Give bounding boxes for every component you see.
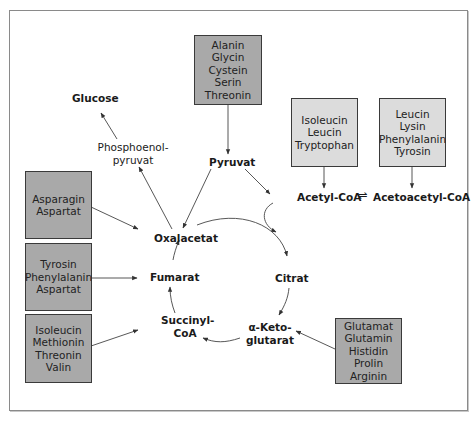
amino-acid: Glycin — [212, 51, 245, 64]
amino-acid: Aspartat — [36, 205, 81, 218]
metabolite-glucose: Glucose — [72, 92, 119, 105]
pep-line1: Phosphoenol- — [97, 141, 169, 154]
amino-acid: Leucin — [307, 126, 341, 139]
source-box-isoleucin-methionin-group: Isoleucin Methionin Threonin Valin — [25, 314, 92, 383]
amino-acid: Threonin — [205, 89, 251, 102]
amino-acid: Methionin — [33, 336, 85, 349]
metabolite-pyruvat: Pyruvat — [209, 156, 255, 169]
amino-acid: Prolin — [354, 357, 383, 370]
metabolite-oxalacetat: Oxalacetat — [154, 232, 218, 245]
amino-acid: Lysin — [399, 120, 425, 133]
metabolite-acetyl-coa: Acetyl-CoA — [297, 191, 361, 204]
equilibrium-arrow-icon: ⇌ — [358, 190, 367, 203]
amino-acid: Tyrosin — [394, 145, 431, 158]
amino-acid: Valin — [46, 361, 71, 374]
source-box-alanin-group: Alanin Glycin Cystein Serin Threonin — [194, 35, 262, 105]
source-box-tyrosin-group: Tyrosin Phenylalanin Aspartat — [25, 243, 92, 311]
source-box-asparagin-group: Asparagin Aspartat — [25, 171, 92, 239]
amino-acid: Serin — [214, 76, 241, 89]
amino-acid: Isoleucin — [35, 324, 81, 337]
amino-acid: Isoleucin — [301, 114, 347, 127]
ketoglutarat-line1: α-Keto- — [244, 321, 296, 334]
succinyl-line1: Succinyl- — [161, 314, 209, 327]
source-box-isoleucin-group: Isoleucin Leucin Tryptophan — [291, 98, 358, 167]
metabolite-citrat: Citrat — [275, 272, 309, 285]
amino-acid: Alanin — [212, 39, 245, 52]
amino-acid: Arginin — [350, 370, 387, 383]
metabolite-succinyl-coa: Succinyl- CoA — [161, 314, 209, 339]
amino-acid: Asparagin — [32, 193, 85, 206]
amino-acid: Phenylalanin — [379, 133, 446, 146]
amino-acid: Threonin — [35, 349, 81, 362]
metabolite-alpha-ketoglutarat: α-Keto- glutarat — [244, 321, 296, 346]
source-box-glutamat-group: Glutamat Glutamin Histidin Prolin Argini… — [335, 318, 402, 384]
amino-acid: Leucin — [395, 108, 429, 121]
amino-acid: Glutamin — [344, 332, 392, 345]
amino-acid: Cystein — [208, 64, 247, 77]
amino-acid: Glutamat — [344, 320, 393, 333]
ketoglutarat-line2: glutarat — [244, 334, 296, 347]
metabolite-acetoacetyl-coa: Acetoacetyl-CoA — [373, 191, 470, 204]
pep-line2: pyruvat — [97, 154, 169, 167]
succinyl-line2: CoA — [161, 327, 209, 340]
metabolite-fumarat: Fumarat — [150, 271, 199, 284]
amino-acid: Histidin — [349, 345, 389, 358]
amino-acid: Tryptophan — [295, 139, 354, 152]
metabolite-phosphoenolpyruvat: Phosphoenol- pyruvat — [97, 141, 169, 166]
amino-acid: Phenylalanin — [25, 271, 92, 284]
amino-acid: Aspartat — [36, 283, 81, 296]
source-box-leucin-group: Leucin Lysin Phenylalanin Tyrosin — [379, 98, 446, 167]
amino-acid: Tyrosin — [40, 258, 77, 271]
